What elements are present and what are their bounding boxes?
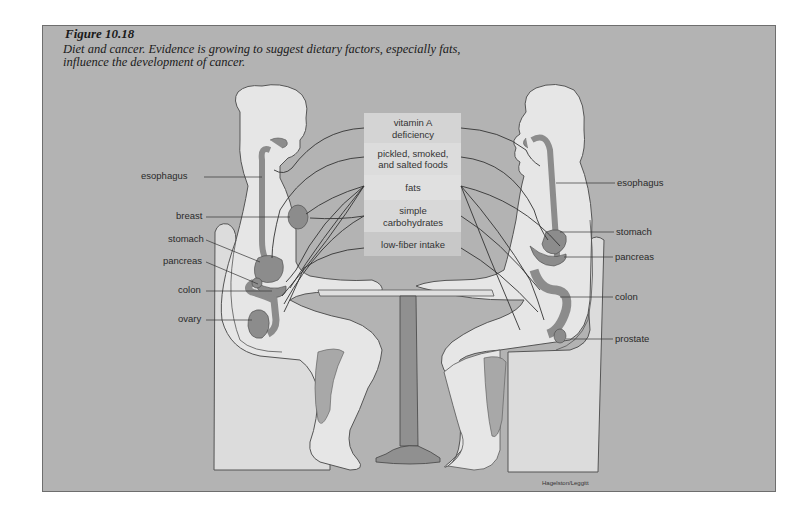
label-left-pancreas: pancreas	[163, 255, 202, 266]
factor-vitamin-a: vitamin A	[394, 117, 433, 128]
label-right-prostate: prostate	[615, 333, 649, 344]
factor-salted-foods: and salted foods	[378, 159, 448, 170]
label-left-ovary: ovary	[178, 313, 201, 324]
factor-pickled: pickled, smoked,	[378, 148, 449, 159]
illustrator-credit: Hagelston/Leggitt	[542, 480, 589, 486]
factor-vitamin-a-deficiency: deficiency	[392, 129, 434, 140]
label-right-colon: colon	[615, 291, 638, 302]
label-right-stomach: stomach	[616, 226, 652, 237]
label-right-esophagus: esophagus	[617, 177, 664, 188]
factor-carbohydrates: carbohydrates	[383, 217, 443, 228]
label-left-breast: breast	[176, 210, 203, 221]
label-left-stomach: stomach	[168, 233, 204, 244]
label-right-pancreas: pancreas	[615, 251, 654, 262]
label-left-esophagus: esophagus	[141, 170, 188, 181]
factor-fats: fats	[405, 182, 421, 193]
factor-simple: simple	[399, 205, 426, 216]
dietary-factors-panel: vitamin A deficiency pickled, smoked, an…	[364, 113, 461, 256]
factor-low-fiber: low-fiber intake	[381, 239, 445, 250]
diet-cancer-illustration: vitamin A deficiency pickled, smoked, an…	[0, 0, 804, 520]
label-left-colon: colon	[178, 284, 201, 295]
